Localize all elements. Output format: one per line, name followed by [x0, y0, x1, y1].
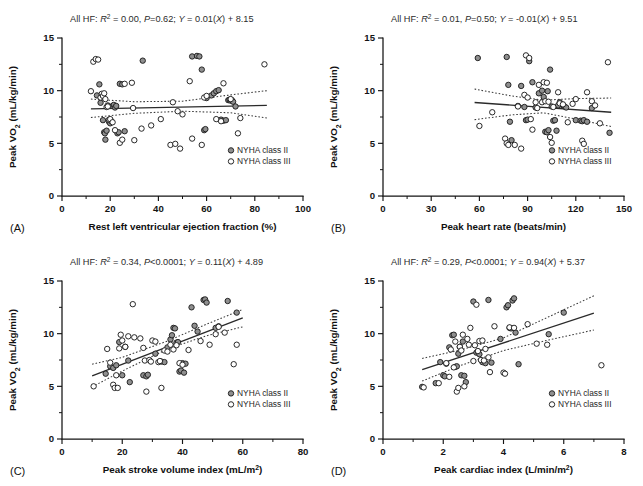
data-point-class-iii: [148, 359, 153, 364]
data-point-class-ii: [189, 305, 194, 310]
data-point-class-iii: [91, 384, 96, 389]
data-point-class-iii: [112, 127, 117, 132]
y-tick-label: 10: [364, 85, 375, 96]
x-tick-label: 150: [616, 203, 632, 214]
confidence-band-upper: [91, 91, 267, 102]
data-point-class-ii: [584, 119, 589, 124]
x-tick-label: 40: [177, 446, 188, 457]
data-point-class-iii: [525, 95, 530, 100]
four-panel-scatter-figure: All HF: R2 = 0.00, P=0.62; Y = 0.01(X) +…: [0, 0, 643, 486]
data-point-class-ii: [545, 88, 550, 93]
panel-letter-a: (A): [10, 222, 25, 234]
data-point-class-ii: [462, 373, 467, 378]
data-point-class-iii: [221, 81, 226, 86]
data-point-class-ii: [100, 117, 105, 122]
confidence-band-upper: [92, 309, 243, 364]
axis-lines: [383, 38, 624, 196]
x-axis-title: Peak heart rate (beats/min): [441, 221, 566, 232]
y-tick-label: 0: [370, 190, 375, 201]
filled-circle-marker-icon: [228, 148, 233, 153]
data-point-class-ii: [197, 54, 202, 59]
data-point-class-ii: [97, 82, 102, 87]
data-point-class-iii: [174, 343, 179, 348]
panel-c-equation-title: All HF: R2 = 0.34, P<0.0001; Y = 0.11(X)…: [70, 256, 263, 268]
data-point-class-iii: [475, 348, 480, 353]
data-point-class-ii: [98, 100, 103, 105]
x-axis-title: Peak cardiac index (L/min/m2): [434, 464, 573, 476]
legend-label: NYHA class II: [237, 388, 288, 398]
data-point-class-iii: [105, 104, 110, 109]
data-point-class-ii: [234, 310, 239, 315]
data-point-class-iii: [451, 365, 456, 370]
data-point-class-iii: [436, 380, 441, 385]
data-point-class-iii: [447, 374, 452, 379]
data-point-class-iii: [592, 103, 597, 108]
data-point-class-iii: [512, 142, 517, 147]
y-tick-label: 5: [49, 381, 55, 392]
data-point-class-iii: [584, 90, 589, 95]
data-point-class-iii: [530, 127, 535, 132]
data-point-class-iii: [213, 331, 218, 336]
data-point-class-ii: [506, 82, 511, 87]
data-point-class-iii: [141, 345, 146, 350]
data-point-class-iii: [547, 134, 552, 139]
y-tick-label: 10: [43, 328, 54, 339]
data-point-class-ii: [172, 326, 177, 331]
data-point-class-ii: [504, 54, 509, 59]
data-point-class-iii: [468, 325, 473, 330]
data-point-class-ii: [475, 55, 480, 60]
data-point-class-iii: [228, 96, 233, 101]
data-point-class-ii: [438, 359, 443, 364]
data-point-class-iii: [130, 105, 135, 110]
data-point-class-iii: [549, 140, 554, 145]
filled-circle-marker-icon: [549, 391, 554, 396]
x-tick-label: 80: [298, 446, 309, 457]
x-tick-label: 4: [501, 446, 507, 457]
panel-d-plot: All HF: R2 = 0.29, P<0.0001; Y = 0.94(X)…: [321, 243, 642, 486]
data-point-class-iii: [120, 338, 125, 343]
panel-c-plot: All HF: R2 = 0.34, P<0.0001; Y = 0.11(X)…: [0, 243, 321, 486]
x-axis-title: Peak stroke volume index (mL/m2): [103, 464, 263, 476]
legend-label: NYHA class III: [237, 399, 291, 409]
x-tick-label: 60: [237, 446, 248, 457]
data-point-class-iii: [122, 81, 127, 86]
data-point-class-iii: [177, 146, 182, 151]
data-point-class-iii: [118, 332, 123, 337]
data-point-class-iii: [525, 321, 530, 326]
data-point-class-ii: [145, 372, 150, 377]
panel-b-equation-title: All HF: R2 = 0.01, P=0.50; Y = -0.01(X) …: [391, 13, 578, 25]
x-tick-label: 20: [117, 446, 128, 457]
data-point-class-iii: [157, 358, 162, 363]
legend-label: NYHA class III: [558, 399, 612, 409]
legend-label: NYHA class III: [558, 156, 612, 166]
x-tick-label: 80: [249, 203, 260, 214]
data-point-class-iii: [533, 100, 538, 105]
y-tick-label: 15: [364, 32, 375, 43]
data-point-class-iii: [170, 100, 175, 105]
data-point-class-iii: [477, 123, 482, 128]
data-point-class-iii: [502, 371, 507, 376]
data-point-class-iii: [138, 336, 143, 341]
data-point-class-ii: [486, 297, 491, 302]
data-point-class-ii: [203, 126, 208, 131]
x-tick-label: 6: [561, 446, 566, 457]
y-tick-label: 0: [49, 190, 54, 201]
x-tick-label: 120: [568, 203, 584, 214]
data-point-class-iii: [173, 141, 178, 146]
data-point-class-iii: [198, 338, 203, 343]
y-axis-title: Peak VO2 (mL/kg/min): [7, 309, 21, 411]
data-point-class-iii: [466, 342, 471, 347]
data-point-class-iii: [560, 102, 565, 107]
data-point-class-ii: [181, 370, 186, 375]
axis-lines: [383, 281, 624, 439]
data-point-class-iii: [565, 120, 570, 125]
data-point-class-iii: [534, 341, 539, 346]
x-axis-title: Rest left ventricular ejection fraction …: [89, 221, 277, 232]
y-tick-label: 15: [43, 275, 54, 286]
data-point-class-iii: [262, 62, 267, 67]
panel-d: All HF: R2 = 0.29, P<0.0001; Y = 0.94(X)…: [321, 243, 643, 486]
data-point-class-ii: [554, 128, 559, 133]
data-point-class-ii: [169, 333, 174, 338]
data-point-class-ii: [122, 129, 127, 134]
y-tick-label: 15: [43, 32, 54, 43]
